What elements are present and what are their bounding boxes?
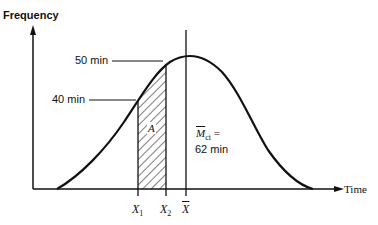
tick-x-mean: X (182, 202, 189, 217)
x-axis-arrow-icon (334, 186, 344, 192)
mean-symbol: M (196, 127, 205, 139)
tick-x1-subscript: 1 (139, 209, 143, 218)
label-40-min: 40 min (52, 93, 85, 105)
mean-value: 62 min (195, 143, 228, 155)
mean-equals: = (214, 127, 220, 139)
y-axis-label: Frequency (3, 9, 59, 21)
tick-x2-subscript: 2 (167, 209, 171, 218)
tick-x2: X2 (160, 202, 171, 218)
y-axis-arrow-icon (30, 25, 36, 35)
distribution-diagram (0, 0, 378, 225)
mean-subscript: ct (205, 133, 211, 142)
label-50-min: 50 min (75, 54, 108, 66)
bell-curve (57, 56, 313, 189)
x-axis-label: Time (344, 183, 367, 195)
y-axis (30, 25, 36, 189)
tick-x1: X1 (132, 202, 143, 218)
x-axis (33, 186, 344, 192)
tick-x-mean-symbol: X (182, 202, 189, 216)
area-label-a: A (147, 122, 156, 134)
